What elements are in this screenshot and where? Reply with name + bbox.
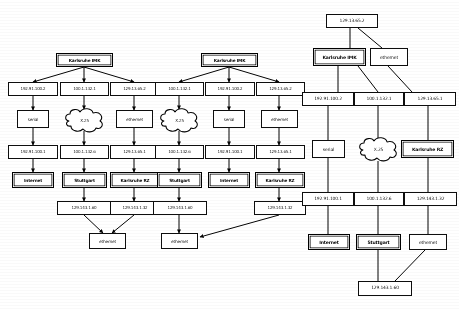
- node-cloud-x25[interactable]: X.25: [157, 107, 202, 133]
- node-address-100-1-132-6[interactable]: 100.1.132.6: [155, 145, 204, 159]
- node-media-ethernet-top[interactable]: ethernet: [261, 110, 298, 128]
- node-media-ethernet-bottom[interactable]: ethernet: [409, 234, 447, 250]
- node-media-ethernet-bottom[interactable]: ethernet: [89, 233, 126, 249]
- node-host-stuttgart[interactable]: Stuttgart: [157, 172, 202, 188]
- node-host-karlsruhe-rz[interactable]: Karlsruhe RZ: [255, 172, 305, 188]
- node-address-129-13-65-2[interactable]: 129.13.65.2: [256, 82, 305, 96]
- node-host-internet[interactable]: Internet: [308, 234, 350, 250]
- node-address-192-91-100-2[interactable]: 192.91.100.2: [302, 92, 354, 106]
- cloud-label-x25: X.25: [374, 147, 383, 152]
- network-diagram-3: 129.13.65.2 Karlsruhe IMK ethernet 192.9…: [300, 0, 459, 309]
- node-media-ethernet-bottom[interactable]: ethernet: [161, 233, 198, 249]
- node-host-internet[interactable]: Internet: [208, 172, 250, 188]
- node-address-129-143-1-32[interactable]: 129.143.1.32: [254, 201, 306, 215]
- node-media-ethernet-top[interactable]: ethernet: [370, 48, 408, 66]
- network-diagram-1: Karlsruhe IMK 192.91.100.2 100.1.132.1 1…: [0, 0, 160, 309]
- node-address-192-91-100-2[interactable]: 192.91.100.2: [8, 82, 58, 96]
- node-address-192-91-100-1[interactable]: 192.91.100.1: [205, 145, 255, 159]
- node-host-internet[interactable]: Internet: [12, 172, 54, 188]
- node-address-100-1-132-1[interactable]: 100.1.132.1: [60, 82, 109, 96]
- node-address-100-1-132-1[interactable]: 100.1.132.1: [354, 92, 404, 106]
- node-address-129-143-1-32[interactable]: 129.143.1.32: [404, 192, 457, 206]
- node-address-129-13-65-1[interactable]: 129.13.65.1: [256, 145, 305, 159]
- node-karlsruhe-imk[interactable]: Karlsruhe IMK: [56, 53, 113, 67]
- node-address-100-1-132-1[interactable]: 100.1.132.1: [155, 82, 204, 96]
- node-address-192-91-100-2[interactable]: 192.91.100.2: [205, 82, 255, 96]
- node-address-129-143-1-60[interactable]: 129.143.1.60: [57, 201, 111, 215]
- node-address-192-91-100-1[interactable]: 192.91.100.1: [302, 192, 354, 206]
- network-diagram-2: Karlsruhe IMK 100.1.132.1 192.91.100.2 1…: [152, 0, 312, 309]
- node-host-stuttgart[interactable]: Stuttgart: [356, 234, 401, 250]
- node-host-karlsruhe-rz[interactable]: Karlsruhe RZ: [401, 140, 454, 158]
- node-address-129-143-1-60[interactable]: 129.143.1.60: [358, 281, 412, 296]
- node-media-serial[interactable]: serial: [213, 110, 245, 128]
- node-media-serial[interactable]: serial: [17, 110, 49, 128]
- cloud-label-x25: X.25: [80, 118, 89, 123]
- node-media-serial[interactable]: serial: [312, 140, 345, 158]
- node-address-129-13-65-1[interactable]: 129.13.65.1: [404, 92, 456, 106]
- node-media-ethernet-top[interactable]: ethernet: [116, 110, 153, 128]
- node-address-129-13-65-2[interactable]: 129.13.65.2: [326, 14, 378, 28]
- node-address-192-91-100-1[interactable]: 192.91.100.1: [8, 145, 58, 159]
- node-karlsruhe-imk[interactable]: Karlsruhe IMK: [313, 48, 366, 66]
- node-address-100-1-132-6[interactable]: 100.1.132.6: [60, 145, 109, 159]
- node-address-100-1-132-6[interactable]: 100.1.132.6: [354, 192, 404, 206]
- cloud-label-x25: X.25: [175, 118, 184, 123]
- scanned-figure: Karlsruhe IMK 192.91.100.2 100.1.132.1 1…: [0, 0, 459, 309]
- node-host-stuttgart[interactable]: Stuttgart: [62, 172, 107, 188]
- node-address-129-143-1-60[interactable]: 129.143.1.60: [153, 201, 207, 215]
- node-karlsruhe-imk[interactable]: Karlsruhe IMK: [201, 53, 258, 67]
- node-cloud-x25[interactable]: X.25: [62, 107, 107, 133]
- node-cloud-x25[interactable]: X.25: [356, 136, 401, 162]
